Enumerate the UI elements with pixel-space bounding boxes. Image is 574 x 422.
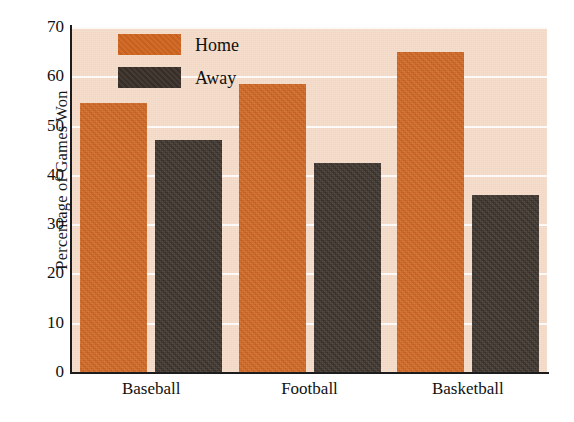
x-tick-label-baseball: Baseball <box>122 379 181 399</box>
y-tick-label-70: 70 <box>0 17 64 37</box>
y-tick-label-40: 40 <box>0 165 64 185</box>
legend-item-away: Away <box>118 63 239 92</box>
x-axis-line <box>70 372 549 374</box>
bar-basketball-away <box>472 195 539 372</box>
y-tick-label-30: 30 <box>0 214 64 234</box>
y-tick-label-60: 60 <box>0 66 64 86</box>
y-tick-label-10: 10 <box>0 313 64 333</box>
x-tick-label-basketball: Basketball <box>432 379 504 399</box>
bar-football-away <box>314 163 381 372</box>
legend-swatch-away-icon <box>118 67 181 88</box>
y-axis-line <box>70 25 72 374</box>
x-tick-label-football: Football <box>281 379 338 399</box>
y-tick-label-0: 0 <box>0 362 64 382</box>
legend-label-home: Home <box>195 36 239 54</box>
bar-chart: Percentage of Games Won 010203040506070 … <box>0 0 574 422</box>
bar-baseball-away <box>155 140 222 372</box>
bar-basketball-home <box>397 52 464 372</box>
bar-football-home <box>239 84 306 372</box>
legend-item-home: Home <box>118 30 239 59</box>
legend: Home Away <box>118 30 239 96</box>
legend-swatch-home-icon <box>118 34 181 55</box>
y-tick-label-20: 20 <box>0 263 64 283</box>
gridline-70 <box>72 27 547 29</box>
bar-baseball-home <box>80 103 147 372</box>
legend-label-away: Away <box>195 69 236 87</box>
y-tick-label-50: 50 <box>0 116 64 136</box>
